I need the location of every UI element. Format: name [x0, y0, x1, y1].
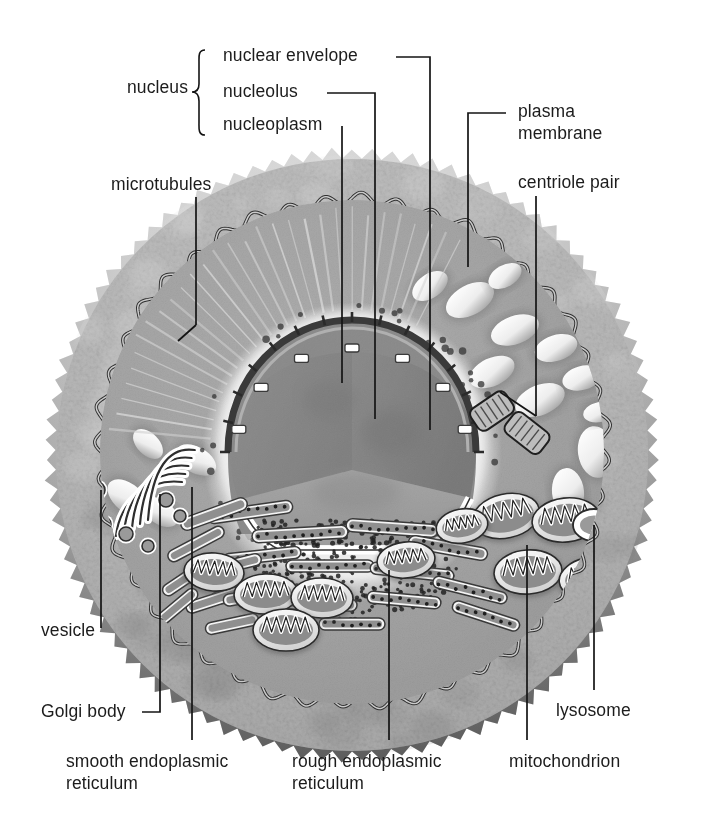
nucleus-brace [192, 50, 205, 135]
label-golgi-body: Golgi body [41, 701, 126, 722]
label-vesicle: vesicle [41, 620, 95, 641]
label-centriole-pair: centriole pair [518, 172, 620, 193]
er-cisterna [286, 560, 374, 572]
label-nucleolus: nucleolus [223, 81, 298, 102]
label-nucleus: nucleus [68, 77, 188, 98]
label-microtubules: microtubules [111, 174, 211, 195]
cell-diagram: nucleus nuclear envelope nucleolus nucle… [0, 0, 704, 831]
label-nuclear-envelope: nuclear envelope [223, 45, 358, 66]
label-smooth-er: smooth endoplasmic reticulum [66, 751, 228, 794]
label-rough-er: rough endoplasmic reticulum [292, 751, 442, 794]
label-nucleoplasm: nucleoplasm [223, 114, 322, 135]
label-lysosome: lysosome [556, 700, 631, 721]
mitochondrion [251, 609, 321, 655]
label-mitochondrion: mitochondrion [509, 751, 620, 772]
label-plasma-membrane: plasma membrane [518, 101, 602, 144]
